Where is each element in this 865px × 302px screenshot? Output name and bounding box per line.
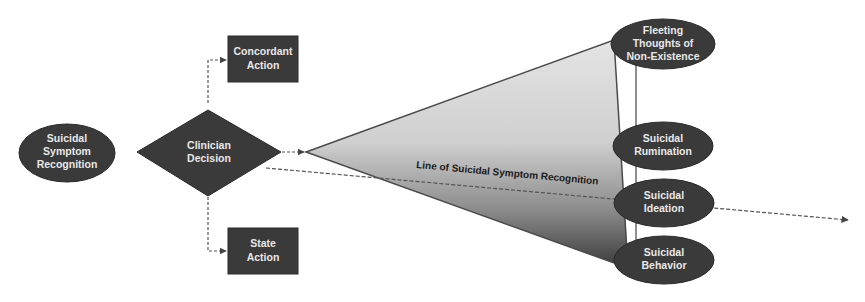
svg-text:Clinician: Clinician: [187, 139, 231, 151]
svg-text:Action: Action: [247, 59, 280, 71]
connector-to-state: [208, 197, 226, 251]
node-clinician-decision: Clinician Decision: [137, 110, 281, 196]
node-state-action: State Action: [228, 228, 298, 274]
svg-text:Concordant: Concordant: [234, 45, 293, 57]
svg-text:Recognition: Recognition: [37, 158, 98, 170]
node-suicidal-ideation: Suicidal Ideation: [614, 179, 714, 227]
svg-text:Symptom: Symptom: [43, 145, 91, 157]
svg-text:Thoughts of: Thoughts of: [633, 37, 694, 49]
svg-text:Suicidal: Suicidal: [47, 132, 87, 144]
svg-text:Suicidal: Suicidal: [644, 246, 684, 258]
severity-cone: [306, 40, 628, 268]
svg-text:Action: Action: [247, 251, 280, 263]
svg-text:Suicidal: Suicidal: [644, 189, 684, 201]
svg-text:Rumination: Rumination: [634, 145, 692, 157]
svg-text:Non-Existence: Non-Existence: [627, 50, 700, 62]
svg-text:Decision: Decision: [187, 152, 231, 164]
node-concordant-action: Concordant Action: [228, 36, 298, 82]
svg-text:Ideation: Ideation: [644, 202, 684, 214]
connector-to-concordant: [208, 60, 226, 103]
node-suicidal-rumination: Suicidal Rumination: [613, 122, 713, 170]
node-fleeting-thoughts: Fleeting Thoughts of Non-Existence: [611, 19, 715, 69]
suicidal-symptom-diagram: Line of Suicidal Symptom Recognition Sui…: [0, 0, 865, 302]
svg-text:State: State: [250, 237, 276, 249]
svg-text:Suicidal: Suicidal: [643, 132, 683, 144]
svg-text:Behavior: Behavior: [642, 259, 687, 271]
node-suicidal-symptom-recognition: Suicidal Symptom Recognition: [19, 124, 115, 182]
node-suicidal-behavior: Suicidal Behavior: [614, 236, 714, 284]
svg-text:Fleeting: Fleeting: [643, 24, 683, 36]
